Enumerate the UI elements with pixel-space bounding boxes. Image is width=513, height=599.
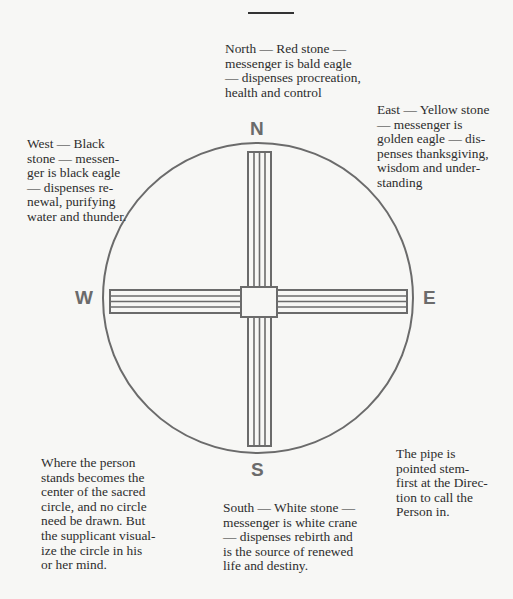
west-annotation: West — Black stone — messen- ger is blac… — [27, 137, 147, 225]
direction-label-west: W — [75, 287, 93, 309]
direction-label-east: E — [423, 287, 436, 309]
pipe-annotation: The pipe is pointed stem- first at the D… — [396, 447, 506, 520]
east-annotation: East — Yellow stone — messenger is golde… — [377, 103, 507, 191]
direction-label-north: N — [250, 118, 264, 140]
direction-label-south: S — [251, 459, 264, 481]
center-square — [241, 287, 277, 317]
center-annotation: Where the person stands becomes the cent… — [41, 456, 181, 573]
north-annotation: North — Red stone — messenger is bald ea… — [225, 42, 395, 100]
south-annotation: South — White stone — messenger is white… — [223, 501, 373, 574]
